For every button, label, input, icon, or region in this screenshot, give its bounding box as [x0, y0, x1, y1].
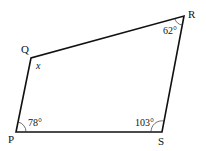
- vertex-label-r: R: [188, 8, 196, 20]
- vertex-label-s: S: [158, 135, 164, 147]
- vertex-label-q: Q: [21, 43, 29, 55]
- angle-label-p: 78°: [28, 117, 42, 128]
- angle-label-q: x: [35, 60, 41, 71]
- quadrilateral-pqrs: [16, 16, 184, 132]
- vertex-label-p: P: [8, 133, 14, 145]
- quadrilateral-diagram: P Q R S 78° x 62° 103°: [0, 0, 206, 151]
- angle-label-r: 62°: [163, 25, 177, 36]
- angle-arc-p: [18, 122, 26, 132]
- angle-label-s: 103°: [135, 117, 154, 128]
